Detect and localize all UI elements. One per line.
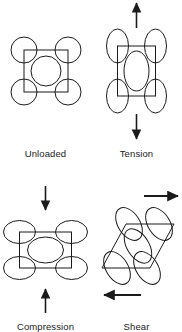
compression-ellipse-group [4,221,88,280]
panel-label-compression: Compression [0,321,91,332]
panel-label-shear: Shear [91,321,182,332]
ellipse-center [28,237,64,263]
panel-unloaded [11,37,81,105]
ellipse-center [119,224,158,268]
tension-ellipse-group [107,29,167,113]
panel-shear [98,196,178,295]
unit-cell-rectangle [118,46,156,96]
panel-label-tension: Tension [91,148,182,159]
ellipse-center [124,51,149,91]
panel-compression [4,186,88,313]
shear-ellipse-group [98,203,178,289]
panel-tension [107,3,167,139]
unloaded-ellipse-group [11,37,81,105]
panel-label-unloaded: Unloaded [0,148,91,159]
ellipse-center [31,56,61,86]
